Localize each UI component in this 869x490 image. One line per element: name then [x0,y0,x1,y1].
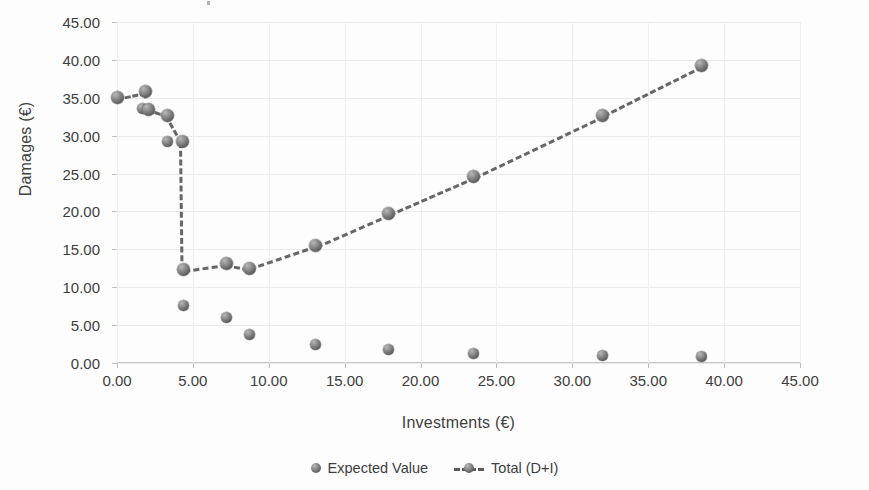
chart-legend: Expected Value Total (D+I) [0,460,869,476]
y-axis-tick-label: 40.00 [22,51,100,68]
data-point-marker [221,312,232,323]
x-axis-tickmark [648,363,649,368]
gridline-horizontal [117,325,800,326]
legend-item-expected-value: Expected Value [311,460,429,476]
x-axis-tickmark [193,363,194,368]
series-line-segment [179,142,184,270]
data-point-marker [177,263,190,276]
x-axis-tickmark [117,363,118,368]
x-axis-tick-label: 40.00 [684,372,764,389]
x-axis-tick-label: 20.00 [381,372,461,389]
x-axis-tick-label: 25.00 [456,372,536,389]
sphere-marker-icon [311,463,321,473]
dashed-line-marker-icon [454,463,484,473]
gridline-vertical [496,22,497,363]
x-axis-tickmark [269,363,270,368]
x-axis-tickmark [345,363,346,368]
x-axis-tick-label: 5.00 [153,372,233,389]
title-remnant [207,1,210,5]
gridline-vertical [193,22,194,363]
data-point-marker [178,300,189,311]
chart-figure: Damages (€) Investments (€) 0.005.0010.0… [0,0,869,490]
gridline-vertical [800,22,801,363]
legend-label: Expected Value [328,460,429,476]
x-axis-title: Investments (€) [117,414,800,432]
gridline-vertical [269,22,270,363]
data-point-marker [468,348,479,359]
data-point-marker [142,103,155,116]
data-point-marker [310,339,321,350]
gridline-vertical [724,22,725,363]
y-axis-tick-label: 15.00 [22,241,100,258]
x-axis-tick-label: 45.00 [760,372,840,389]
gridline-horizontal [117,287,800,288]
data-point-marker [111,91,124,104]
y-axis-tick-label: 45.00 [22,14,100,31]
x-axis-tickmark [421,363,422,368]
legend-item-total: Total (D+I) [454,460,558,476]
data-point-marker [162,136,173,147]
data-point-marker [244,329,255,340]
x-axis-tickmark [800,363,801,368]
gridline-horizontal [117,211,800,212]
gridline-horizontal [117,363,800,364]
y-axis-tick-labels: 0.005.0010.0015.0020.0025.0030.0035.0040… [22,0,100,490]
data-point-marker [161,109,174,122]
data-point-marker [220,257,233,270]
y-axis-tick-label: 5.00 [22,317,100,334]
series-line-segment [316,214,390,249]
x-axis-tickmark [724,363,725,368]
data-point-marker [597,350,608,361]
y-axis-tick-label: 20.00 [22,203,100,220]
y-axis-tick-label: 25.00 [22,165,100,182]
gridline-horizontal [117,249,800,250]
data-point-marker [695,59,708,72]
x-axis-tick-label: 10.00 [229,372,309,389]
data-point-marker [176,135,189,148]
x-axis-tickmark [496,363,497,368]
y-axis-tick-label: 30.00 [22,127,100,144]
gridline-horizontal [117,98,800,99]
y-axis-tick-label: 10.00 [22,279,100,296]
gridline-vertical [117,22,118,363]
legend-label: Total (D+I) [491,460,558,476]
y-axis-tick-label: 35.00 [22,89,100,106]
y-axis-tick-label: 0.00 [22,355,100,372]
x-axis-tick-label: 0.00 [77,372,157,389]
series-line-segment [603,66,703,118]
x-axis-tickmark [572,363,573,368]
gridline-horizontal [117,22,800,23]
gridline-horizontal [117,136,800,137]
x-axis-tick-label: 15.00 [305,372,385,389]
gridline-vertical [572,22,573,363]
data-point-marker [383,344,394,355]
x-axis-tick-label: 30.00 [532,372,612,389]
x-axis-tick-label: 35.00 [608,372,688,389]
data-point-marker [139,85,152,98]
gridline-vertical [345,22,346,363]
gridline-horizontal [117,174,800,175]
data-point-marker [596,109,609,122]
gridline-vertical [421,22,422,363]
data-point-marker [467,170,480,183]
series-line-segment [474,115,604,179]
data-point-marker [243,262,256,275]
plot-area [117,22,800,363]
data-point-marker [696,351,707,362]
data-point-marker [382,207,395,220]
gridline-vertical [648,22,649,363]
